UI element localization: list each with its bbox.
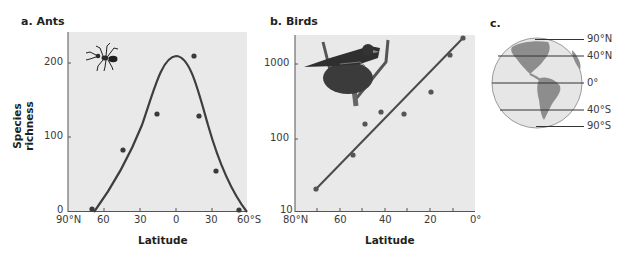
ants-y-tick-200: 200 [44, 56, 63, 67]
ants-x-tick-30S: 30 [205, 214, 218, 225]
birds-x-tick-60: 60 [334, 214, 347, 225]
globe-label-0: 0° [587, 77, 598, 88]
ants-x-tick-30N: 30 [134, 214, 147, 225]
birds-x-axis-title: Latitude [365, 234, 415, 246]
globe-label-90N: 90°N [587, 33, 612, 44]
globe-label-40S: 40°S [587, 104, 611, 115]
ants-y-tick-100: 100 [44, 130, 63, 141]
figure-canvas [0, 0, 623, 259]
ants-x-tick-60N: 60 [97, 214, 110, 225]
birds-y-tick-1000: 1000 [264, 57, 289, 68]
globe-label-90S: 90°S [587, 120, 611, 131]
ants-y-axis-title: Species richness [11, 81, 35, 171]
birds-y-tick-100: 100 [270, 132, 289, 143]
ants-x-tick-90N: 90°N [56, 214, 81, 225]
ants-x-axis-title: Latitude [138, 234, 188, 246]
globe-diagram [492, 38, 584, 128]
ants-plot-area [68, 32, 247, 211]
ants-x-tick-0: 0 [173, 214, 179, 225]
birds-x-tick-80N: 80°N [283, 214, 308, 225]
birds-x-tick-0: 0° [470, 214, 481, 225]
globe-label-40N: 40°N [587, 50, 612, 61]
ants-x-tick-60S: 60°S [237, 214, 261, 225]
birds-x-tick-20: 20 [424, 214, 437, 225]
ants-chart [68, 32, 247, 213]
birds-x-tick-40: 40 [379, 214, 392, 225]
birds-chart [295, 35, 475, 212]
